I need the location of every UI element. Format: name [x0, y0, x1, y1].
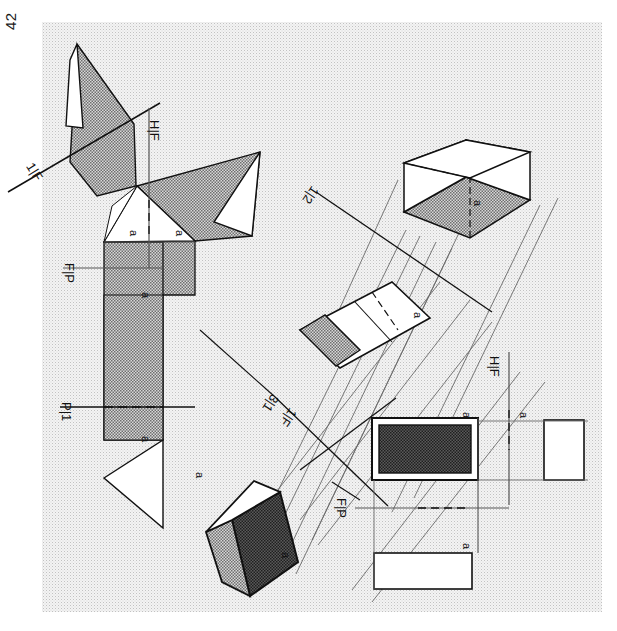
label-a-left-3: a — [140, 292, 152, 298]
label-a-right-4: a — [461, 412, 473, 418]
ortho-front-view-fill — [379, 425, 471, 473]
ortho-top-view — [374, 553, 472, 589]
label-a-right-7: a — [194, 472, 206, 478]
box-top-right — [404, 140, 530, 238]
label-a-right-5: a — [518, 412, 530, 418]
label-fp-right: F|P — [334, 498, 349, 518]
label-a-right-3: a — [280, 552, 292, 558]
left-lower-strip — [104, 295, 163, 440]
scanned-page: 42 — [0, 0, 617, 631]
left-lower-triangle — [104, 440, 163, 528]
left-figure — [8, 44, 260, 528]
label-a-right-2: a — [412, 312, 424, 318]
label-a-left-4: a — [140, 436, 152, 442]
right-figure — [200, 140, 588, 602]
label-hf-right: H|F — [487, 356, 502, 377]
ortho-views — [372, 418, 588, 589]
label-a-left-2: a — [174, 230, 186, 236]
label-hf-left: H|F — [147, 120, 162, 141]
label-a-left-1: a — [128, 230, 140, 236]
label-fp-left: F|P — [62, 263, 77, 283]
ref-line-31-ext — [200, 330, 274, 396]
ortho-side-view — [544, 420, 584, 480]
label-a-right-1: a — [472, 200, 484, 206]
drawing-plate — [0, 0, 617, 631]
label-a-right-6: a — [461, 543, 473, 549]
box-lower-left — [206, 481, 298, 596]
label-p1-left: P|1 — [59, 402, 74, 421]
